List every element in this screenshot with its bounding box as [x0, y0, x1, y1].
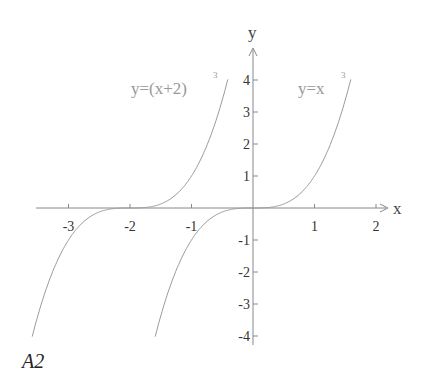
- labels: xy-3-2-1124321-1-2-3-4y=(x+2)3y=x3: [63, 23, 402, 344]
- x-tick-label: 2: [373, 219, 380, 234]
- curve-label-base: y=x: [298, 79, 325, 98]
- x-tick-label: 1: [311, 219, 318, 234]
- curve-label-shifted: y=(x+2): [131, 79, 187, 98]
- y-tick-label: 2: [243, 137, 250, 152]
- y-tick-label: -1: [238, 233, 250, 248]
- curve-label-base-exponent: 3: [341, 70, 346, 80]
- y-tick-label: 3: [243, 105, 250, 120]
- x-tick-label: -2: [124, 219, 136, 234]
- y-tick-label: 1: [243, 169, 250, 184]
- x-axis-label: x: [393, 199, 402, 218]
- y-tick-label: -2: [238, 265, 250, 280]
- y-tick-label: -3: [238, 297, 250, 312]
- axes: [36, 48, 388, 345]
- cubic-graph: xy-3-2-1124321-1-2-3-4y=(x+2)3y=x3: [0, 0, 429, 387]
- y-axis-label: y: [248, 23, 257, 42]
- curve-label-shifted-exponent: 3: [213, 70, 218, 80]
- y-tick-label: 4: [243, 73, 250, 88]
- y-tick-label: -4: [238, 329, 250, 344]
- x-tick-label: -3: [63, 219, 75, 234]
- x-tick-label: -1: [186, 219, 198, 234]
- figure-caption: A2: [22, 350, 44, 373]
